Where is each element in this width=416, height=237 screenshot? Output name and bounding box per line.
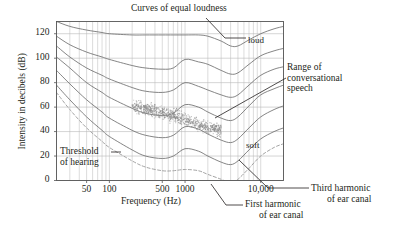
x-tick-label: 1000: [167, 184, 203, 195]
y-tick-label: 60: [24, 101, 50, 112]
first-harmonic-line-1: First harmonic: [245, 199, 303, 210]
range-speech-line-1: Range of: [287, 62, 342, 73]
y-tick-label: 100: [24, 52, 50, 63]
y-tick-label: 80: [24, 76, 50, 87]
y-tick-label: 20: [24, 150, 50, 161]
label-loud: loud: [248, 35, 264, 45]
label-range-of-conversational-speech: Range of conversational speech: [287, 62, 342, 94]
y-tick-label: 120: [24, 27, 50, 38]
equal-loudness-figure: Curves of equal loudness Intensity in de…: [0, 0, 416, 237]
label-soft: soft: [246, 140, 260, 150]
threshold-line-1: Threshold: [60, 146, 99, 157]
chart-title: Curves of equal loudness: [131, 3, 227, 14]
third-harmonic-line-2: of ear canal: [311, 194, 371, 205]
range-speech-line-2: conversational: [287, 73, 342, 84]
y-tick-label: 40: [24, 125, 50, 136]
third-harmonic-line-1: Third harmonic: [311, 183, 371, 194]
label-threshold-of-hearing: Threshold of hearing: [60, 146, 99, 167]
range-speech-line-3: speech: [287, 83, 342, 94]
x-tick-label: 100: [91, 184, 127, 195]
y-tick-label: 0: [24, 174, 50, 185]
label-first-harmonic-of-ear-canal: First harmonic of ear canal: [245, 199, 303, 220]
threshold-line-2: of hearing: [60, 157, 99, 168]
x-tick-label: 10,000: [243, 184, 279, 195]
x-axis-title: Frequency (Hz): [121, 196, 181, 207]
label-third-harmonic-of-ear-canal: Third harmonic of ear canal: [311, 183, 371, 204]
first-harmonic-line-2: of ear canal: [245, 210, 303, 221]
